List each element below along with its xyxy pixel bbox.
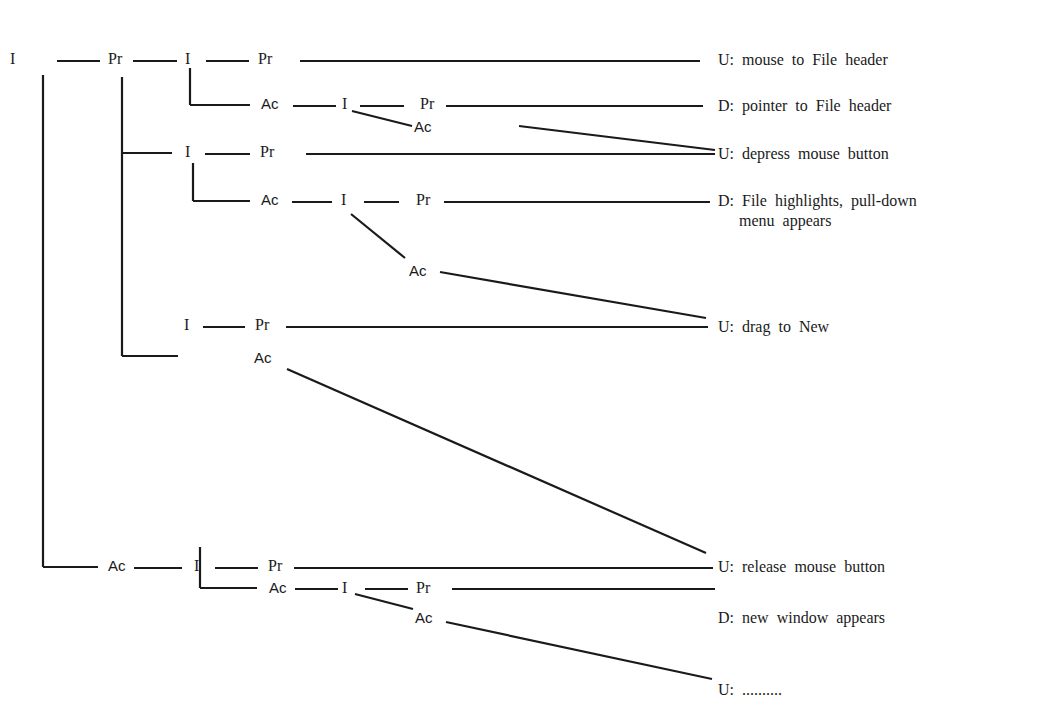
event-label-display: D: File highlights, pull-downmenu appear… (718, 191, 917, 231)
event-text: mouse to File header (742, 51, 888, 68)
node-action: Ac (254, 350, 272, 365)
event-text: new window appears (742, 609, 885, 626)
node-presentation: Pr (416, 580, 430, 596)
node-intention: I (194, 558, 199, 574)
node-presentation: Pr (255, 317, 269, 333)
event-actor: D (718, 97, 730, 114)
node-action: Ac (261, 192, 279, 207)
event-text: drag to New (742, 318, 829, 335)
tree-edge (355, 594, 413, 609)
node-presentation: Pr (268, 558, 282, 574)
node-presentation: Pr (108, 51, 122, 67)
node-action: Ac (415, 610, 433, 625)
event-text-continuation: menu appears (718, 211, 917, 231)
event-label-display: D: pointer to File header (718, 96, 891, 116)
tree-edge (519, 126, 715, 150)
node-action: Ac (108, 558, 126, 573)
event-actor: U (718, 318, 730, 335)
tree-edge (287, 369, 706, 553)
event-actor: U (718, 145, 730, 162)
node-action: Ac (414, 119, 432, 134)
event-text: .......... (742, 681, 782, 698)
event-actor: U (718, 558, 730, 575)
event-label-display: D: new window appears (718, 608, 885, 628)
node-intention: I (10, 51, 15, 67)
event-text: release mouse button (742, 558, 885, 575)
event-text: depress mouse button (742, 145, 889, 162)
node-intention: I (185, 51, 190, 67)
interaction-tree-diagram: IPrIPrAcIPrAcIPrAcIPrAcIPrAcAcIPrAcIPrAc… (0, 0, 1047, 727)
tree-edge (446, 622, 712, 679)
node-presentation: Pr (420, 96, 434, 112)
event-actor: U (718, 51, 730, 68)
event-actor: U (718, 681, 730, 698)
node-intention: I (342, 96, 347, 112)
event-label-user: U: depress mouse button (718, 144, 889, 164)
event-actor: D (718, 192, 730, 209)
tree-edge (352, 111, 412, 126)
node-action: Ac (261, 96, 279, 111)
tree-edge (440, 272, 706, 318)
node-presentation: Pr (416, 192, 430, 208)
node-action: Ac (409, 263, 427, 278)
tree-edge (351, 214, 405, 258)
event-actor: D (718, 609, 730, 626)
event-label-user: U: mouse to File header (718, 50, 888, 70)
event-label-user: U: drag to New (718, 317, 829, 337)
node-presentation: Pr (258, 51, 272, 67)
node-intention: I (342, 580, 347, 596)
node-action: Ac (269, 580, 287, 595)
event-label-user: U: release mouse button (718, 557, 885, 577)
node-presentation: Pr (260, 144, 274, 160)
node-intention: I (185, 144, 190, 160)
event-text: pointer to File header (742, 97, 891, 114)
event-label-user: U: .......... (718, 680, 782, 700)
node-intention: I (184, 317, 189, 333)
event-text: File highlights, pull-down (742, 192, 917, 209)
node-intention: I (341, 192, 346, 208)
